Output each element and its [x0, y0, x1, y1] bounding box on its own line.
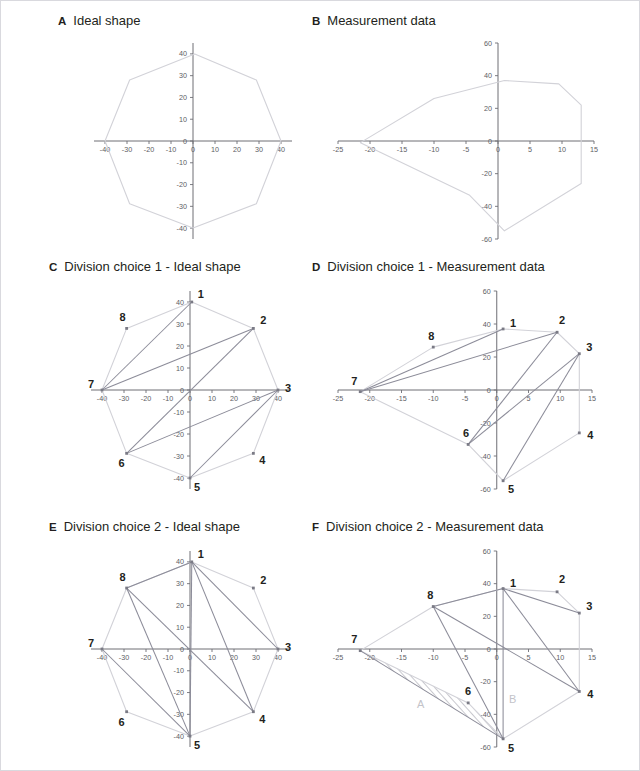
- panel-d-letter: D: [312, 261, 320, 273]
- panel-a-plot: -40-30-20-10010203040403020100-10-20-30-…: [58, 31, 310, 253]
- vertex-marker: [252, 452, 255, 455]
- division-diagonal: [433, 589, 503, 607]
- panel-a-chart: -40-30-20-10010203040403020100-10-20-30-…: [58, 31, 310, 253]
- x-tick-label: -10: [428, 394, 438, 403]
- x-tick-label: 15: [588, 653, 596, 662]
- y-tick-label: 0: [183, 137, 187, 146]
- y-tick-label: 40: [484, 71, 492, 80]
- region-label-b: B: [509, 693, 516, 705]
- figure-frame: A Ideal shape -40-30-20-1001020304040302…: [0, 0, 640, 771]
- x-tick-label: -30: [119, 394, 129, 403]
- vertex-label-8: 8: [427, 589, 433, 601]
- panel-b-letter: B: [312, 15, 320, 27]
- vertex-marker: [277, 389, 280, 392]
- x-tick-label: -10: [428, 653, 438, 662]
- y-tick-label: -10: [174, 408, 184, 417]
- vertex-marker: [189, 735, 192, 738]
- x-tick-label: -15: [396, 394, 406, 403]
- panel-a-title: Ideal shape: [73, 13, 140, 28]
- vertex-label-3: 3: [285, 641, 291, 653]
- panel-f: F Division choice 2 - Measurement data -…: [312, 519, 632, 767]
- x-tick-label: 15: [588, 394, 596, 403]
- vertex-label-7: 7: [88, 378, 94, 390]
- y-tick-label: 0: [487, 645, 491, 654]
- vertex-label-7: 7: [88, 637, 94, 649]
- division-diagonal: [360, 651, 503, 739]
- x-tick-label: 30: [255, 145, 263, 154]
- x-tick-label: -15: [396, 653, 406, 662]
- vertex-label-5: 5: [194, 481, 200, 493]
- x-tick-label: -10: [429, 145, 439, 154]
- vertex-marker: [467, 443, 470, 446]
- panel-f-plot: -25-20-15-10-50510156040200-20-40-601234…: [312, 537, 612, 763]
- y-tick-label: 20: [484, 104, 492, 113]
- vertex-label-8: 8: [120, 311, 126, 323]
- x-tick-label: 0: [495, 653, 499, 662]
- y-tick-label: 0: [180, 645, 184, 654]
- vertex-marker: [359, 649, 362, 652]
- x-tick-label: 5: [528, 145, 532, 154]
- y-tick-label: 0: [487, 386, 491, 395]
- x-tick-label: 10: [208, 653, 216, 662]
- y-tick-label: -30: [177, 202, 187, 211]
- vertex-label-8: 8: [120, 571, 126, 583]
- y-tick-label: 0: [180, 386, 184, 395]
- x-tick-label: 10: [211, 145, 219, 154]
- y-tick-label: 30: [176, 320, 184, 329]
- panel-a-header: A Ideal shape: [58, 13, 141, 28]
- vertex-marker: [432, 605, 435, 608]
- vertex-marker: [252, 327, 255, 330]
- y-tick-label: 30: [179, 71, 187, 80]
- y-tick-label: -20: [177, 180, 187, 189]
- vertex-marker: [432, 346, 435, 349]
- vertex-label-2: 2: [559, 573, 565, 585]
- panel-d-title: Division choice 1 - Measurement data: [327, 259, 545, 274]
- diagonals-group: [360, 329, 579, 481]
- vertex-label-7: 7: [351, 375, 357, 387]
- vertex-marker: [125, 587, 128, 590]
- vertex-marker: [277, 648, 280, 651]
- x-tick-label: -5: [463, 145, 469, 154]
- vertex-marker: [101, 648, 104, 651]
- vertex-label-5: 5: [508, 483, 514, 495]
- vertex-label-3: 3: [586, 341, 592, 353]
- panel-f-chart: -25-20-15-10-50510156040200-20-40-601234…: [312, 537, 612, 763]
- vertex-label-6: 6: [465, 685, 471, 697]
- x-tick-label: -25: [333, 394, 343, 403]
- vertex-marker: [467, 702, 470, 705]
- vertex-marker: [125, 452, 128, 455]
- vertex-marker: [190, 560, 193, 563]
- y-tick-label: -20: [482, 169, 492, 178]
- vertex-marker: [502, 479, 505, 482]
- panel-a: A Ideal shape -40-30-20-1001020304040302…: [58, 13, 338, 253]
- vertex-label-4: 4: [587, 688, 594, 700]
- panel-b-header: B Measurement data: [312, 13, 436, 28]
- vertex-marker: [502, 587, 505, 590]
- axes-group: -25-20-15-10-50510156040200-20-40-60: [333, 287, 596, 494]
- y-tick-label: -20: [174, 688, 184, 697]
- vertex-label-4: 4: [587, 429, 594, 441]
- y-tick-label: 60: [483, 287, 491, 296]
- vertex-label-3: 3: [285, 382, 291, 394]
- division-diagonal: [503, 589, 579, 692]
- x-tick-label: 20: [230, 394, 238, 403]
- vertex-marker: [190, 301, 193, 304]
- y-tick-label: 20: [176, 601, 184, 610]
- x-tick-label: -15: [397, 145, 407, 154]
- panel-e-letter: E: [49, 521, 57, 533]
- panel-c: C Division choice 1 - Ideal shape -40-30…: [49, 259, 334, 509]
- panel-b-title: Measurement data: [327, 13, 435, 28]
- x-tick-label: -10: [166, 145, 176, 154]
- x-tick-label: 0: [191, 145, 195, 154]
- axes-group: -25-20-15-10-50510156040200-20-40-60: [333, 547, 596, 752]
- x-tick-label: 0: [495, 394, 499, 403]
- division-diagonal: [503, 589, 579, 614]
- panel-e: E Division choice 2 - Ideal shape -40-30…: [49, 519, 334, 767]
- panel-b: B Measurement data -25-20-15-10-50510156…: [312, 13, 632, 253]
- x-tick-label: -5: [462, 653, 468, 662]
- x-tick-label: -25: [333, 653, 343, 662]
- vertex-label-1: 1: [510, 317, 516, 329]
- y-tick-label: 30: [176, 579, 184, 588]
- division-diagonal: [360, 332, 557, 391]
- x-tick-label: -30: [119, 653, 129, 662]
